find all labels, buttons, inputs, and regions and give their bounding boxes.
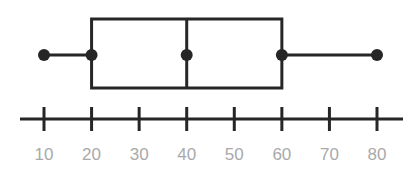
min-point <box>38 49 50 61</box>
tick-label: 80 <box>368 145 387 164</box>
number-line-axis: 1020304050607080 <box>20 107 403 164</box>
box-plot-chart: 1020304050607080 <box>0 0 415 175</box>
max-point <box>371 49 383 61</box>
tick-label: 10 <box>35 145 54 164</box>
tick-label: 70 <box>320 145 339 164</box>
tick-label: 40 <box>177 145 196 164</box>
median-point <box>181 49 193 61</box>
box-plot <box>38 19 383 88</box>
q1-point <box>86 49 98 61</box>
tick-label: 50 <box>225 145 244 164</box>
tick-label: 60 <box>272 145 291 164</box>
q3-point <box>276 49 288 61</box>
tick-label: 30 <box>130 145 149 164</box>
tick-label: 20 <box>82 145 101 164</box>
